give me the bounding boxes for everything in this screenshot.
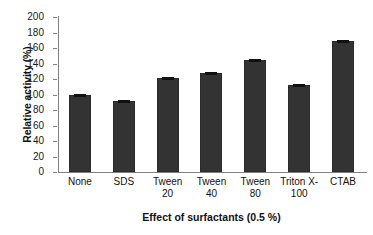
x-tick-label: Tween 20 (146, 176, 190, 199)
x-tick-label: Triton X- 100 (277, 176, 321, 199)
error-bar-cap (293, 84, 305, 87)
bar-slot (102, 17, 146, 172)
y-tick-mark (53, 33, 57, 34)
bar-slot (233, 17, 277, 172)
y-tick-label: 180 (27, 27, 44, 39)
y-tick-mark (53, 17, 57, 18)
y-tick-label: 80 (33, 104, 44, 116)
y-tick-label: 140 (27, 58, 44, 70)
error-bar-cap (74, 94, 86, 97)
bar-slot (190, 17, 234, 172)
y-tick-mark (53, 126, 57, 127)
y-tick-mark (53, 48, 57, 49)
y-tick-label: 0 (38, 166, 44, 178)
y-tick-mark (53, 157, 57, 158)
bar (288, 85, 310, 172)
y-tick-mark (53, 110, 57, 111)
bar-slot (58, 17, 102, 172)
bar (69, 95, 91, 173)
y-tick-label: 160 (27, 42, 44, 54)
bars-layer (58, 17, 365, 172)
x-tick-label: Tween 40 (190, 176, 234, 199)
y-tick-label: 100 (27, 89, 44, 101)
bar (113, 101, 135, 172)
x-tick-label: CTAB (321, 176, 365, 188)
x-tick-label: SDS (102, 176, 146, 188)
bar-slot (146, 17, 190, 172)
bar (157, 78, 179, 172)
error-bar-cap (337, 40, 349, 43)
error-bar-cap (205, 72, 217, 75)
error-bar-cap (249, 59, 261, 62)
x-tick-label: None (58, 176, 102, 188)
bar-slot (321, 17, 365, 172)
bar (332, 41, 354, 172)
y-tick-mark (53, 79, 57, 80)
y-tick-mark (53, 172, 57, 173)
y-tick-label: 60 (33, 120, 44, 132)
y-tick-label: 120 (27, 73, 44, 85)
y-tick-label: 20 (33, 151, 44, 163)
y-tick-mark (53, 141, 57, 142)
x-axis-title: Effect of surfactants (0.5 %) (58, 211, 365, 223)
x-tick-label: Tween 80 (233, 176, 277, 199)
y-tick-label: 40 (33, 135, 44, 147)
y-tick-mark (53, 64, 57, 65)
y-tick-label: 200 (27, 11, 44, 23)
y-axis-ticks: 020406080100120140160180200 (0, 0, 53, 235)
bar (244, 60, 266, 172)
error-bar-cap (162, 77, 174, 80)
error-bar-cap (118, 100, 130, 103)
bar-slot (277, 17, 321, 172)
x-axis-line (58, 172, 367, 173)
bar-chart: Relative activity (%) 020406080100120140… (0, 0, 373, 235)
y-tick-mark (53, 95, 57, 96)
x-axis-labels: NoneSDSTween 20Tween 40Tween 80Triton X-… (58, 176, 365, 214)
bar (200, 73, 222, 172)
